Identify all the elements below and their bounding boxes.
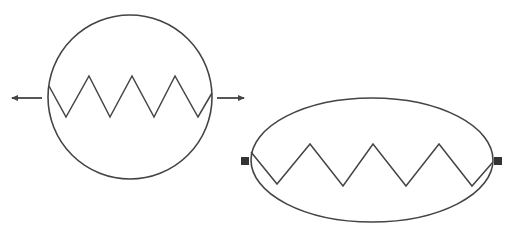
heating-coil-zigzag xyxy=(251,144,493,186)
circular-heat-exchanger xyxy=(12,15,244,179)
heating-coil-zigzag xyxy=(49,76,212,117)
left-port-square-icon xyxy=(241,157,249,165)
right-port-square-icon xyxy=(494,157,502,165)
heat-exchanger-diagram xyxy=(0,0,514,233)
exchanger-shell-ellipse xyxy=(251,98,493,222)
elliptical-heat-exchanger xyxy=(241,98,502,222)
